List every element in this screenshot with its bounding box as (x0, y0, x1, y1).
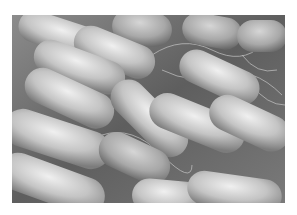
bacteria-micrograph (12, 15, 285, 203)
micrograph-illustration (12, 15, 285, 203)
